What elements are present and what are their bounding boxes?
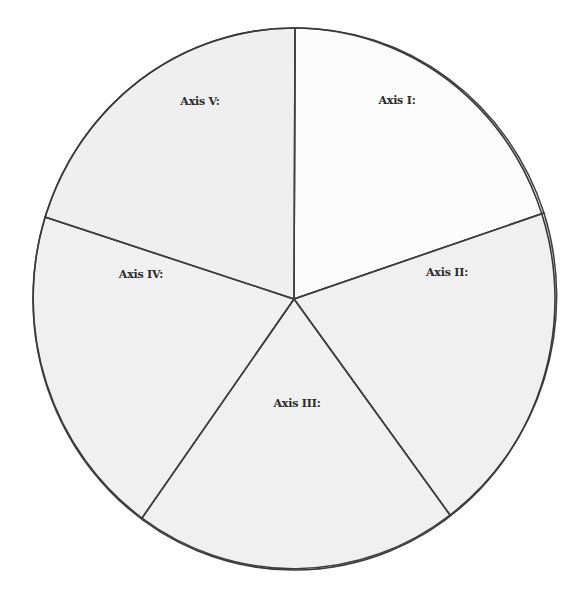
label-axis-1: Axis I: — [377, 94, 415, 107]
label-axis-5: Axis V: — [179, 95, 220, 108]
label-axis-2: Axis II: — [425, 266, 468, 279]
spoke-top — [294, 28, 295, 299]
axis-wheel-diagram: Axis I: Axis II: Axis III: Axis IV: Axis… — [0, 0, 583, 593]
label-axis-4: Axis IV: — [118, 268, 163, 281]
label-axis-3: Axis III: — [273, 397, 321, 410]
